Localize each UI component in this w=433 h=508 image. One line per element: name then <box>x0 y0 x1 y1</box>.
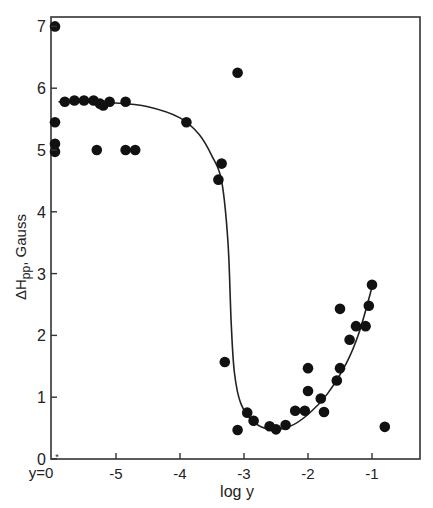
data-point <box>271 424 282 435</box>
y-tick-label: 4 <box>37 204 46 221</box>
y-tick-label: 5 <box>37 142 46 159</box>
data-point <box>216 158 227 169</box>
data-point <box>181 117 192 128</box>
data-point <box>316 393 327 404</box>
x-axis-ticks: -5-4-3-2-1 <box>109 453 378 482</box>
data-point <box>319 407 330 418</box>
data-point <box>280 420 291 431</box>
fitted-curve-path <box>58 102 372 430</box>
data-point <box>303 363 314 374</box>
y-tick-label: 6 <box>37 80 46 97</box>
data-point <box>232 67 243 78</box>
data-points <box>50 21 390 435</box>
y-label-sub: pp <box>19 265 33 279</box>
y-label-main: ΔH <box>12 279 29 300</box>
data-point <box>290 405 301 416</box>
data-point <box>351 321 362 332</box>
axis-break-mark: * <box>55 452 59 462</box>
data-point <box>220 357 231 368</box>
chart: * -5-4-3-2-1 01234567 log y y=0 ΔHpp, Ga… <box>0 0 433 508</box>
x-tick-label: -1 <box>365 465 378 482</box>
data-point <box>335 363 346 374</box>
x-tick-label: -3 <box>237 465 250 482</box>
y-tick-label: 2 <box>37 327 46 344</box>
data-point <box>380 422 391 433</box>
data-point <box>248 415 259 426</box>
data-point <box>69 95 80 106</box>
y-tick-label: 7 <box>37 18 46 35</box>
data-point <box>335 304 346 315</box>
data-point <box>92 145 103 156</box>
data-point <box>120 145 131 156</box>
plot-border <box>51 17 420 459</box>
data-point <box>303 386 314 397</box>
fitted-curve <box>58 102 372 430</box>
y-axis-label: ΔHpp, Gauss <box>12 214 33 300</box>
x-axis-label: log y <box>220 483 254 500</box>
data-point <box>344 334 355 345</box>
data-point <box>232 425 243 436</box>
x-tick-label: -5 <box>109 465 122 482</box>
data-point <box>130 145 141 156</box>
data-point <box>300 405 311 416</box>
x-tick-label: -4 <box>173 465 186 482</box>
data-point <box>332 375 343 386</box>
x-tick-label: -2 <box>301 465 314 482</box>
data-point <box>364 300 375 311</box>
data-point <box>50 147 61 158</box>
y-tick-label: 3 <box>37 266 46 283</box>
y-axis-ticks: 01234567 <box>37 18 57 468</box>
data-point <box>360 321 371 332</box>
data-point <box>120 96 131 107</box>
y-label-rest: , Gauss <box>12 214 29 266</box>
data-point <box>104 96 115 107</box>
chart-svg: * -5-4-3-2-1 01234567 log y y=0 ΔHpp, Ga… <box>0 0 433 508</box>
x-origin-label: y=0 <box>29 464 54 481</box>
data-point <box>213 174 224 185</box>
y-tick-label: 1 <box>37 389 46 406</box>
plot-frame: * <box>51 17 420 462</box>
data-point <box>50 117 61 128</box>
data-point <box>367 279 378 290</box>
data-point <box>79 95 90 106</box>
data-point <box>60 96 71 107</box>
